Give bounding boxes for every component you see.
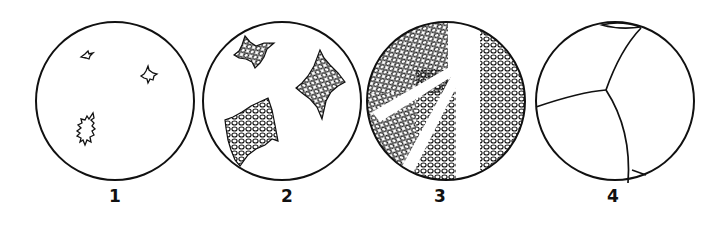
panel-label-3: 3: [430, 186, 450, 206]
panel-label-1: 1: [105, 186, 125, 206]
panel-1: [36, 22, 194, 180]
panel-2: [203, 22, 361, 180]
panel-3: [366, 21, 530, 183]
circle-2: [203, 22, 361, 180]
panel-label-4: 4: [603, 186, 623, 206]
circle-1: [36, 22, 194, 180]
circle-4: [536, 22, 694, 180]
panel-4: [536, 22, 694, 183]
panel-label-2: 2: [277, 186, 297, 206]
